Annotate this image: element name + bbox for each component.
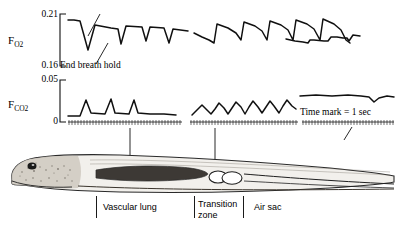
fco2-trace-segment-1 — [68, 99, 176, 116]
transition-zone-bracket-right — [243, 196, 244, 218]
time-mark-ruler-middle — [190, 120, 298, 125]
vascular-lung-bracket-left — [96, 196, 97, 218]
end-breath-hold-annotation: End breath hold — [60, 60, 121, 70]
transition-zone-label-line1: Transition — [198, 199, 237, 209]
snake-eye — [28, 162, 37, 169]
respiratory-trace-figure: FO2 0.21 0.16 FCO2 0.05 0 — [0, 0, 396, 235]
air-sac-label: Air sac — [254, 202, 282, 212]
fo2-trace-segment-1 — [68, 20, 188, 50]
transition-zone-label-line2: zone — [198, 210, 218, 220]
transition-zone-vesicle-2 — [222, 172, 242, 184]
fo2-axis-bracket — [60, 14, 66, 66]
snake-eye-highlight — [32, 164, 35, 166]
time-mark-annotation: Time mark = 1 sec — [300, 107, 371, 117]
fco2-trace-segment-3 — [300, 95, 394, 102]
fo2-trace-segment-2 — [194, 19, 350, 43]
time-mark-leader — [344, 127, 352, 140]
transition-zone-bracket-left — [194, 196, 195, 218]
vascular-lung-organ — [96, 166, 208, 181]
snake-anatomy-diagram — [12, 155, 394, 193]
vascular-lung-label: Vascular lung — [103, 202, 157, 212]
time-mark-ruler-right — [302, 120, 394, 125]
fo2-trace-group — [68, 19, 360, 50]
fco2-trace-segment-2 — [192, 100, 296, 115]
fco2-axis-bracket — [60, 80, 66, 122]
time-mark-ruler-left — [68, 120, 182, 125]
